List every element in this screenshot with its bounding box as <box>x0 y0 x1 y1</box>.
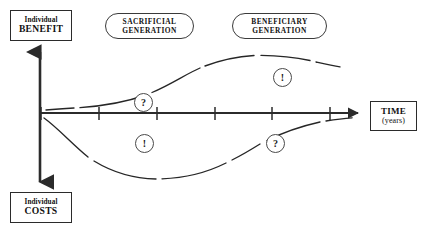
callout-beneficiary-generation: BENEFICIARY GENERATION <box>232 13 327 39</box>
sacrificial-line1: SACRIFICIAL <box>123 17 177 26</box>
beneficiary-line2: GENERATION <box>252 26 306 35</box>
exclamation-mark-icon-lower-left: ! <box>135 134 154 153</box>
callout-sacrificial-generation: SACRIFICIAL GENERATION <box>105 13 194 39</box>
time-label-line2: (years) <box>382 117 405 126</box>
cost-curve <box>44 118 352 179</box>
sacrificial-line2: GENERATION <box>122 26 176 35</box>
question-mark-icon-lower-right: ? <box>266 134 285 153</box>
x-axis-label: TIME (years) <box>370 101 417 131</box>
y-axis-top-label: Individual BENEFIT <box>10 10 72 41</box>
exclamation-mark-icon-upper-right: ! <box>273 68 292 87</box>
figure-canvas: Individual BENEFIT Individual COSTS TIME… <box>0 0 425 234</box>
benefit-label-line2: BENEFIT <box>19 24 63 35</box>
benefit-curve <box>46 55 340 110</box>
y-axis-bottom-label: Individual COSTS <box>10 192 72 223</box>
costs-label-line2: COSTS <box>25 206 58 217</box>
question-mark-icon-upper-left: ? <box>134 93 153 112</box>
beneficiary-line1: BENEFICIARY <box>251 17 307 26</box>
x-axis <box>40 107 358 120</box>
